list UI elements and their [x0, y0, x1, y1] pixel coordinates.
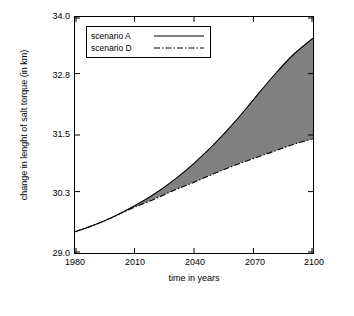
y-tick-label: 32.8 [34, 71, 70, 80]
x-tick-label: 2100 [294, 257, 334, 267]
x-tick-label: 2010 [115, 257, 155, 267]
shaded-region [75, 38, 313, 232]
legend-item-scenario-d: scenario D [91, 42, 205, 54]
y-tick-label: 34.0 [34, 12, 70, 21]
legend-line-sample-dashdot [153, 43, 205, 53]
x-tick-label: 1980 [55, 257, 95, 267]
chart-container: change in lenght of salt torque (in km) … [0, 0, 354, 316]
x-tick-label: 2070 [235, 257, 275, 267]
y-tick-label: 30.3 [34, 189, 70, 198]
series-line-scenario-d [75, 139, 313, 232]
x-axis-ticks: 1980 2010 2040 2070 2100 [0, 257, 354, 271]
x-tick-label: 2040 [175, 257, 215, 267]
legend-label: scenario A [91, 31, 147, 41]
legend: scenario A scenario D [86, 26, 211, 58]
legend-label: scenario D [91, 43, 147, 53]
legend-item-scenario-a: scenario A [91, 30, 205, 42]
legend-line-sample-solid [153, 31, 205, 41]
x-axis-label: time in years [74, 273, 314, 283]
y-tick-label: 31.5 [34, 130, 70, 139]
